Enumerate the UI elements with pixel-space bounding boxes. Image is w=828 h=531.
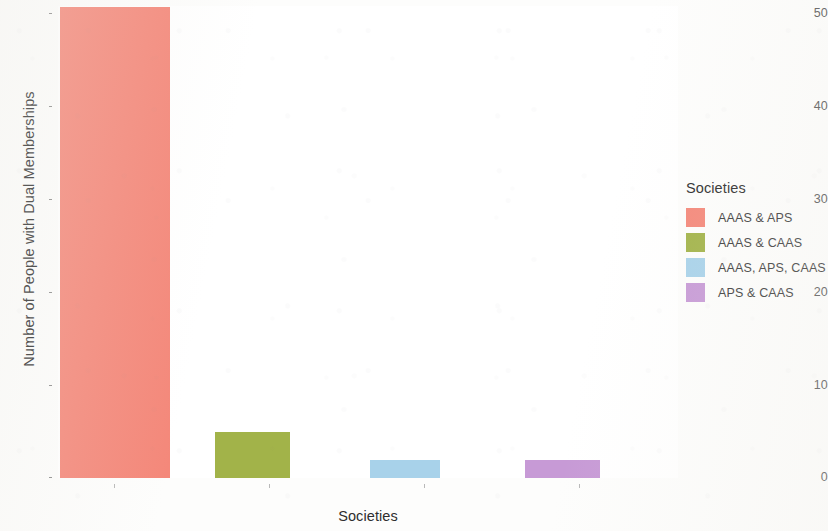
plot-area — [58, 6, 678, 478]
chart-page: 50 40 30 20 10 0 Number of People with D… — [0, 0, 828, 531]
y-tick-label-50: 50 — [794, 6, 828, 20]
legend-swatch-icon-aps-caas — [686, 283, 705, 302]
y-tick-label-40: 40 — [794, 99, 828, 113]
legend-label-aaas-caas: AAAS & CAAS — [718, 236, 802, 250]
bar-2 — [370, 460, 440, 478]
x-tick-mark-1 — [114, 484, 115, 488]
x-tick-mark-3 — [424, 484, 425, 488]
y-tick-mark-30 — [49, 199, 52, 200]
legend: Societies AAAS & APS AAAS & CAAS AAAS, A… — [686, 180, 826, 305]
legend-swatch-icon-aaas-aps — [686, 208, 705, 227]
y-tick-mark-40 — [49, 106, 52, 107]
y-axis-title: Number of People with Dual Memberships — [21, 19, 37, 439]
legend-item-aaas-aps[interactable]: AAAS & APS — [686, 205, 826, 230]
legend-swatch-icon-aaas-aps-caas — [686, 258, 705, 277]
x-tick-mark-2 — [269, 484, 270, 488]
legend-label-aps-caas: APS & CAAS — [718, 286, 794, 300]
y-tick-mark-50 — [49, 13, 52, 14]
y-tick-mark-0 — [49, 477, 52, 478]
bar-0 — [60, 7, 170, 478]
bar-1 — [215, 432, 290, 478]
y-tick-label-0: 0 — [794, 470, 828, 484]
bar-3 — [525, 460, 600, 478]
y-tick-label-10: 10 — [794, 378, 828, 392]
legend-item-aaas-aps-caas[interactable]: AAAS, APS, CAAS — [686, 255, 826, 280]
legend-label-aaas-aps-caas: AAAS, APS, CAAS — [718, 261, 826, 275]
x-axis-title: Societies — [58, 508, 678, 524]
legend-swatch-icon-aaas-caas — [686, 233, 705, 252]
y-tick-mark-20 — [49, 292, 52, 293]
x-tick-mark-4 — [579, 484, 580, 488]
legend-item-aps-caas[interactable]: APS & CAAS — [686, 280, 826, 305]
legend-title: Societies — [686, 180, 826, 196]
legend-label-aaas-aps: AAAS & APS — [718, 211, 792, 225]
legend-item-aaas-caas[interactable]: AAAS & CAAS — [686, 230, 826, 255]
y-tick-mark-10 — [49, 385, 52, 386]
